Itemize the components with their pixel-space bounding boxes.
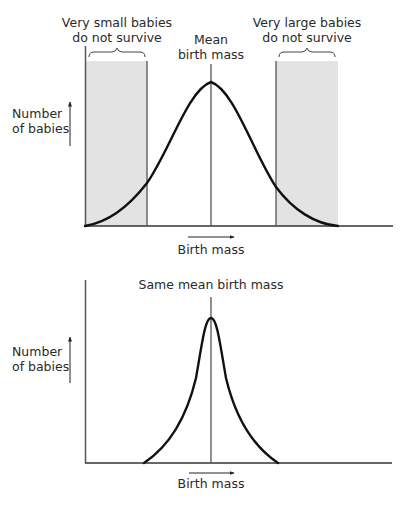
- left-region-label-line1: Very small babies: [62, 15, 172, 30]
- mean-label-line1: Mean: [194, 32, 228, 47]
- right-region-label-line2: do not survive: [262, 30, 352, 45]
- bottom-chart: Same mean birth mass Number of babies Bi…: [12, 277, 392, 491]
- top-ylabel-line1: Number: [12, 106, 63, 121]
- bottom-ylabel-line2: of babies: [12, 359, 69, 374]
- mean-label-line2: birth mass: [178, 47, 244, 62]
- right-region-label-line1: Very large babies: [253, 15, 362, 30]
- top-xlabel: Birth mass: [178, 242, 245, 257]
- right-brace: [279, 48, 335, 57]
- bottom-ylabel-line1: Number: [12, 344, 63, 359]
- right-shaded-region: [276, 61, 338, 226]
- bottom-xlabel: Birth mass: [178, 476, 245, 491]
- top-chart: Very small babies do not survive Very la…: [12, 15, 393, 257]
- stabilising-selection-diagram: Very small babies do not survive Very la…: [0, 0, 414, 518]
- left-shaded-region: [86, 61, 147, 226]
- left-region-label-line2: do not survive: [72, 30, 162, 45]
- left-brace: [89, 48, 145, 57]
- top-ylabel-line2: of babies: [12, 121, 69, 136]
- bottom-mean-label: Same mean birth mass: [138, 277, 283, 292]
